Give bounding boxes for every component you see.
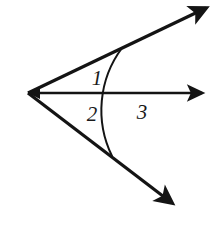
lower-ray [28,93,172,203]
figure-canvas [0,0,222,225]
upper-ray [28,8,206,93]
angle-label-1: 1 [92,68,103,89]
rays-group [28,8,206,203]
angle-label-2: 2 [87,104,98,125]
geometry-figure: 1 2 3 [0,0,222,225]
angle-arc [101,48,122,156]
angle-label-3: 3 [137,102,148,123]
